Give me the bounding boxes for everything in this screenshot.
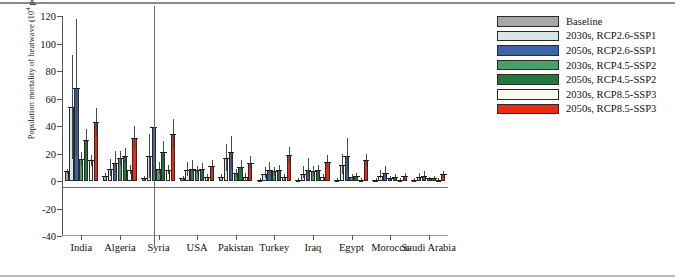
legend-swatch (497, 31, 559, 42)
error-whisker (380, 170, 381, 178)
y-axis-title: Population mortality of heatwave (104 pe… (25, 0, 36, 159)
y-tick-label: 60 (46, 93, 57, 104)
mean-marker (122, 156, 129, 157)
error-whisker (192, 160, 193, 174)
figure-canvas: Population mortality of heatwave (104 pe… (0, 0, 675, 279)
mean-marker (131, 138, 138, 139)
error-whisker (308, 158, 309, 177)
mean-marker (440, 174, 447, 175)
mean-marker (160, 152, 167, 153)
mean-marker (401, 176, 408, 177)
legend-swatch (497, 104, 559, 115)
mean-marker (343, 156, 350, 157)
mean-marker (353, 176, 360, 177)
mean-marker (199, 169, 206, 170)
x-tick-mark (120, 235, 121, 240)
legend-item[interactable]: 2030s, RCP2.6-SSP1 (497, 29, 669, 44)
legend-item[interactable]: 2030s, RCP8.5-SSP3 (497, 87, 669, 102)
y-tick-mark (57, 209, 62, 210)
y-tick-mark (57, 44, 62, 45)
plot-area: -40-20020406080100120 IndiaAlgeriaSyriaU… (62, 16, 448, 236)
x-tick-mark (313, 235, 314, 240)
x-tick-mark (81, 235, 82, 240)
mean-marker (286, 155, 293, 156)
error-whisker (347, 138, 348, 170)
x-tick-label: Egypt (339, 242, 364, 253)
x-tick-label: Saudi Arabia (401, 242, 456, 253)
legend-label: 2050s, RCP4.5-SSP2 (566, 74, 656, 85)
y-tick-mark (57, 181, 62, 182)
y-tick-mark (57, 154, 62, 155)
legend-swatch (497, 60, 559, 71)
y-tick-mark (57, 99, 62, 100)
y-tick-label: -20 (42, 203, 56, 214)
legend-label: 2030s, RCP8.5-SSP3 (566, 89, 656, 100)
legend-item[interactable]: 2050s, RCP8.5-SSP3 (497, 102, 669, 117)
error-whisker (115, 151, 116, 173)
top-divider (0, 2, 675, 4)
x-tick-label: India (71, 242, 93, 253)
legend-swatch (497, 74, 559, 85)
y-tick-label: 40 (46, 121, 57, 132)
x-tick-label: Syria (147, 242, 169, 253)
y-axis-title-text: Population mortality of heatwave (104 pe… (26, 0, 35, 139)
mean-marker (73, 88, 80, 89)
x-tick-mark (197, 235, 198, 240)
x-tick-label: Turkey (259, 242, 289, 253)
y-tick-label: 100 (40, 38, 56, 49)
legend-swatch (497, 45, 559, 56)
y-tick-label: 120 (40, 11, 56, 22)
mean-marker (421, 176, 428, 177)
y-tick-mark (57, 126, 62, 127)
x-tick-mark (274, 235, 275, 240)
extended-error-whisker (154, 6, 155, 248)
error-whisker (385, 166, 386, 177)
y-tick-mark (57, 71, 62, 72)
mean-marker (83, 140, 90, 141)
x-tick-label: USA (187, 242, 208, 253)
legend-label: 2030s, RCP4.5-SSP2 (566, 60, 656, 71)
mean-marker (382, 173, 389, 174)
error-whisker (303, 166, 304, 178)
y-tick-mark (57, 16, 62, 17)
legend-label: 2050s, RCP2.6-SSP1 (566, 45, 656, 56)
legend-item[interactable]: 2030s, RCP4.5-SSP2 (497, 58, 669, 73)
x-tick-label: Algeria (104, 242, 136, 253)
mean-marker (93, 122, 100, 123)
mean-marker (237, 167, 244, 168)
x-tick-mark (352, 235, 353, 240)
mean-marker (276, 170, 283, 171)
legend-label: Baseline (566, 16, 602, 27)
y-tick-label: 20 (46, 148, 57, 159)
mean-marker (324, 162, 331, 163)
mean-marker (247, 163, 254, 164)
mean-marker (392, 177, 399, 178)
legend-item[interactable]: 2050s, RCP2.6-SSP1 (497, 43, 669, 58)
zero-baseline (62, 187, 448, 188)
x-tick-mark (159, 235, 160, 240)
x-tick-mark (429, 235, 430, 240)
mean-marker (208, 166, 215, 167)
y-tick-label: 80 (46, 66, 57, 77)
x-tick-mark (236, 235, 237, 240)
mean-marker (363, 160, 370, 161)
legend-swatch (497, 16, 559, 27)
y-tick-mark (57, 236, 62, 237)
legend-swatch (497, 89, 559, 100)
bottom-divider (0, 275, 675, 277)
legend-item[interactable]: 2050s, RCP4.5-SSP2 (497, 72, 669, 87)
y-tick-label: 0 (51, 176, 56, 187)
legend-label: 2050s, RCP8.5-SSP3 (566, 103, 656, 114)
error-whisker (110, 159, 111, 176)
legend-item[interactable]: Baseline (497, 14, 669, 29)
mean-marker (315, 170, 322, 171)
mean-marker (170, 134, 177, 135)
error-whisker (265, 167, 266, 178)
legend-label: 2030s, RCP2.6-SSP1 (566, 30, 656, 41)
x-tick-label: Pakistan (218, 242, 254, 253)
y-axis-line (62, 16, 63, 236)
y-tick-label: -40 (42, 231, 56, 242)
chart-legend: Baseline2030s, RCP2.6-SSP12050s, RCP2.6-… (497, 14, 669, 116)
x-tick-mark (390, 235, 391, 240)
x-tick-label: Iraq (304, 242, 321, 253)
